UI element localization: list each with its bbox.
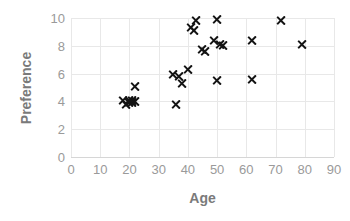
- data-point-marker: [177, 78, 188, 89]
- y-tick-label: 4: [25, 94, 65, 109]
- data-point-marker: [171, 99, 182, 110]
- x-axis-title: Age: [70, 190, 335, 206]
- gridline-horizontal: [71, 18, 334, 19]
- gridline-horizontal: [71, 129, 334, 130]
- data-point-marker: [217, 40, 228, 51]
- data-point-marker: [276, 15, 287, 26]
- data-point-marker: [182, 64, 193, 75]
- data-point-marker: [200, 46, 211, 57]
- gridline-vertical: [276, 18, 277, 157]
- data-point-marker: [188, 25, 199, 36]
- gridline-vertical: [334, 18, 335, 157]
- data-point-marker: [296, 39, 307, 50]
- y-tick-label: 6: [25, 66, 65, 81]
- data-point-marker: [212, 14, 223, 25]
- data-point-marker: [130, 81, 141, 92]
- gridline-vertical: [100, 18, 101, 157]
- data-point-marker: [191, 15, 202, 26]
- x-tick-label: 90: [314, 162, 350, 177]
- y-tick-label: 2: [25, 122, 65, 137]
- y-tick-label: 10: [25, 11, 65, 26]
- data-point-marker: [212, 75, 223, 86]
- y-axis-tick-labels: 0246810: [20, 18, 65, 157]
- gridline-vertical: [159, 18, 160, 157]
- x-axis-tick-labels: 0102030405060708090: [71, 162, 334, 182]
- plot-area: [71, 18, 334, 157]
- gridline-vertical: [71, 18, 72, 157]
- gridline-horizontal: [71, 101, 334, 102]
- y-tick-label: 8: [25, 38, 65, 53]
- data-point-marker: [247, 35, 258, 46]
- gridline-horizontal: [71, 74, 334, 75]
- data-point-marker: [247, 74, 258, 85]
- scatter-chart: Preference 0246810 0102030405060708090 A…: [0, 0, 350, 221]
- x-axis-line: [71, 157, 334, 158]
- gridline-vertical: [188, 18, 189, 157]
- data-point-marker: [130, 96, 141, 107]
